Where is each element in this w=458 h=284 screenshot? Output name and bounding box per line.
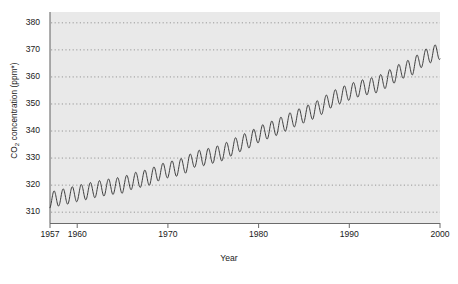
co2-concentration-chart: CO2 concentration (ppm*) 310320330340350…: [0, 0, 458, 284]
y-tick-label-370: 370: [14, 44, 40, 54]
plot-background: [50, 12, 440, 223]
y-tick-label-310: 310: [14, 206, 40, 216]
x-tick-label-2000: 2000: [420, 229, 458, 239]
y-axis-label-subscript: 2: [12, 143, 19, 147]
y-tick-label-320: 320: [14, 179, 40, 189]
y-tick-label-380: 380: [14, 17, 40, 27]
y-axis-label: CO2 concentration (ppm*): [10, 31, 19, 191]
x-tick-label-1970: 1970: [148, 229, 188, 239]
x-tick-label-1990: 1990: [329, 229, 369, 239]
y-tick-label-360: 360: [14, 71, 40, 81]
x-tick-label-1960: 1960: [57, 229, 97, 239]
y-tick-label-350: 350: [14, 98, 40, 108]
plot-canvas: [0, 0, 458, 284]
y-tick-label-340: 340: [14, 125, 40, 135]
x-axis-label: Year: [0, 253, 458, 263]
caption-sliver: [0, 273, 458, 278]
y-tick-label-330: 330: [14, 152, 40, 162]
x-tick-label-1980: 1980: [239, 229, 279, 239]
